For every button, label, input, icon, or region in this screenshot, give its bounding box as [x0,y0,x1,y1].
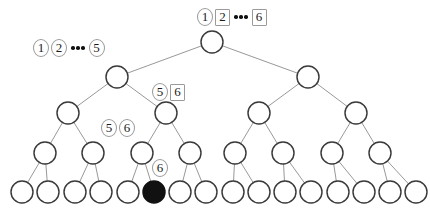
tree-node[interactable] [224,142,246,164]
tree-edge [241,162,253,182]
tree-edge [145,164,151,182]
badge-square-6: 6 [252,9,267,26]
tree-edge [234,164,235,181]
tree-node[interactable] [300,181,322,203]
tree-node[interactable] [327,181,349,203]
tree-node[interactable] [195,181,217,203]
level2-label: 56 [152,83,185,101]
level3-label: 56 [101,119,135,137]
tree-edge [148,122,161,143]
tree-edge [222,46,297,73]
tree-edge [127,46,201,73]
badge-circle-6: 6 [152,159,168,177]
tree-edge [50,123,62,144]
tree-edge [172,122,185,143]
tree-node[interactable] [155,102,177,124]
badge-circle-5: 5 [152,83,168,101]
tree-node[interactable] [248,102,270,124]
tree-node[interactable] [345,102,367,124]
tree-edge [268,84,299,107]
tree-edge [265,122,278,143]
leaf-label: 6 [152,159,168,177]
tree-node[interactable] [90,181,112,203]
tree-graphic [0,0,430,215]
root-label: 126 [197,8,267,26]
badge-circle-5: 5 [89,39,105,57]
tree-edge [132,163,139,181]
badge-square-6: 6 [170,84,185,101]
tree-node[interactable] [179,142,201,164]
tree-node-selected[interactable] [143,181,165,203]
tree-edge [183,164,188,182]
tree-node[interactable] [117,181,139,203]
tree-edge [46,164,47,181]
tree-node[interactable] [106,66,128,88]
badge-circle-1: 1 [33,39,49,57]
badge-circle-1: 1 [197,8,213,26]
ellipsis-icon [69,46,87,50]
badge-circle-6: 6 [119,119,135,137]
tree-node[interactable] [379,181,401,203]
tree-node[interactable] [297,66,319,88]
badge-square-2: 2 [215,9,230,26]
tree-edge [241,122,254,143]
tree-edge [80,163,89,182]
ellipsis-icon [232,15,250,19]
tree-node[interactable] [131,142,153,164]
tree-node[interactable] [321,142,343,164]
tree-edge [28,162,40,182]
badge-circle-2: 2 [51,39,67,57]
tree-node[interactable] [34,142,56,164]
tree-node[interactable] [405,181,427,203]
tree-edge [362,122,375,143]
tree-node[interactable] [169,181,191,203]
tree-edge [284,164,285,181]
badge-circle-5: 5 [101,119,117,137]
tree-node[interactable] [82,142,104,164]
tree-edge [383,164,388,182]
tree-node[interactable] [248,181,270,203]
tree-node[interactable] [11,181,33,203]
binary-tree-figure: 12612556566 [0,0,430,215]
tree-node[interactable] [201,31,223,53]
tree-edge [289,162,304,183]
tree-edge [317,84,347,107]
tree-edge [95,164,99,181]
tree-node[interactable] [369,142,391,164]
tree-edge [334,164,337,181]
tree-edge [77,84,108,107]
tree-edge [339,162,357,184]
tree-node[interactable] [274,181,296,203]
level1-left-label: 125 [33,39,105,57]
tree-node[interactable] [272,142,294,164]
tree-edge [74,122,87,143]
tree-edge [338,122,351,143]
tree-node[interactable] [64,181,86,203]
tree-node[interactable] [222,181,244,203]
tree-edge [194,163,202,182]
tree-node[interactable] [57,102,79,124]
tree-node[interactable] [37,181,59,203]
tree-node[interactable] [353,181,375,203]
